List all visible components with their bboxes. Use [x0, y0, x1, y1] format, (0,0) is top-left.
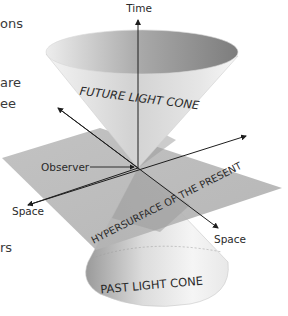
- time-label: Time: [125, 2, 152, 14]
- space-label-right: Space: [214, 233, 246, 245]
- light-cone-diagram: PAST LIGHT CONE HYPERSURFACE OF THE PRES…: [0, 0, 288, 316]
- future-cone-opening: [46, 30, 238, 74]
- observer-label: Observer: [41, 161, 90, 173]
- space-label-left: Space: [12, 205, 44, 217]
